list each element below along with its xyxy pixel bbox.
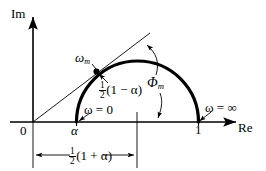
omega-m-label: ωm — [75, 51, 90, 66]
omega-zero-label: ω = 0 — [84, 103, 113, 116]
phi-m-subscript: m — [158, 81, 164, 91]
fraction-denominator: 2 — [99, 91, 106, 100]
radius-annotation-label: 1 2 (1 − α) — [99, 81, 142, 101]
origin-label: 0 — [20, 124, 27, 137]
tick-label-one: 1 — [195, 123, 202, 136]
dimension-annotation-label: 1 2 (1 + α) — [69, 147, 112, 167]
radius-expression: (1 − α) — [106, 82, 142, 97]
omega-infinity-label: ω = ∞ — [205, 101, 237, 114]
phi-m-angle-arrow-upper — [147, 45, 158, 75]
omega-m-point-marker — [93, 68, 99, 74]
dimension-expression: (1 + α) — [76, 148, 112, 163]
phi-symbol: Φ — [147, 75, 158, 90]
one-half-fraction: 1 2 — [99, 81, 106, 101]
imaginary-axis-label: Im — [11, 7, 25, 20]
one-half-fraction-dimension: 1 2 — [69, 147, 76, 167]
tick-label-alpha: α — [71, 124, 78, 137]
phi-m-angle-arrow-lower — [158, 93, 162, 118]
phi-m-label: Φm — [147, 76, 164, 91]
fraction-denominator: 2 — [69, 157, 76, 166]
leader-omega-m — [92, 64, 96, 69]
real-axis-label: Re — [238, 121, 252, 134]
omega-symbol: ω — [75, 50, 84, 65]
figure-polar-plot-lead-compensator: Im Re 0 α 1 ωm ω = 0 ω = ∞ Φm 1 2 (1 − α… — [0, 0, 266, 171]
omega-m-subscript: m — [84, 57, 90, 66]
